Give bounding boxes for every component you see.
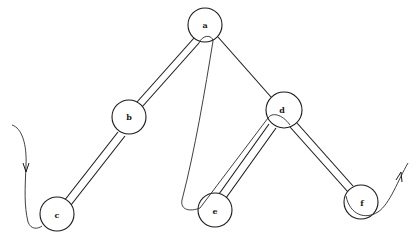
edge-d-f: [290, 123, 353, 192]
edge-a-d: [218, 37, 271, 97]
traversal-path-a-to-e: [182, 36, 213, 210]
tree-traversal-diagram: a b c d e f: [0, 0, 417, 236]
node-label-d: d: [279, 105, 285, 115]
node-label-a: a: [202, 20, 207, 30]
node-c: c: [40, 197, 74, 231]
traversal-path-entry: [12, 125, 42, 228]
node-d: d: [266, 92, 302, 128]
edge-d-e: [219, 124, 276, 198]
node-e: e: [198, 193, 232, 227]
node-f: f: [344, 185, 378, 219]
edge-b-c: [64, 132, 125, 205]
edge-a-b: [137, 38, 199, 107]
node-b: b: [112, 100, 146, 134]
node-label-f: f: [360, 198, 364, 208]
node-label-e: e: [212, 206, 217, 216]
node-label-c: c: [55, 210, 60, 220]
node-label-b: b: [126, 112, 132, 122]
